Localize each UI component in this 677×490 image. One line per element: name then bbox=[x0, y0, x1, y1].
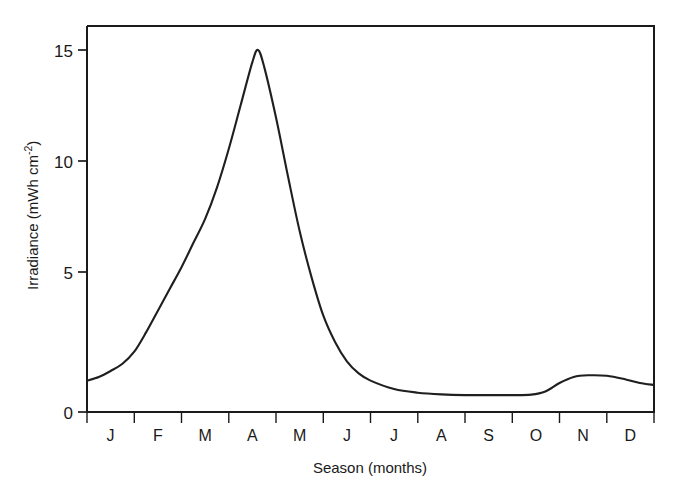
y-tick-label-5: 5 bbox=[64, 264, 73, 283]
y-tick-label-10: 10 bbox=[54, 153, 73, 172]
x-label-apr: A bbox=[247, 427, 258, 444]
x-axis-title: Season (months) bbox=[313, 459, 427, 476]
x-label-jan: J bbox=[107, 427, 115, 444]
x-label-feb: F bbox=[153, 427, 163, 444]
x-label-mar: M bbox=[198, 427, 211, 444]
y-axis-title: Irradiance (mWh cm-2) bbox=[22, 141, 41, 290]
x-label-dec: D bbox=[625, 427, 637, 444]
y-axis-title-close: ) bbox=[24, 141, 41, 146]
x-label-nov: N bbox=[577, 427, 589, 444]
y-tick-label-0: 0 bbox=[64, 404, 73, 423]
x-label-sep: S bbox=[483, 427, 494, 444]
x-axis-tick-labels: J F M A M J J A S O N D bbox=[107, 427, 637, 444]
irradiance-curve bbox=[87, 50, 654, 395]
x-label-jun: J bbox=[343, 427, 351, 444]
plot-frame bbox=[87, 26, 654, 412]
x-label-aug: A bbox=[436, 427, 447, 444]
y-axis-ticks bbox=[78, 50, 87, 412]
x-label-jul: J bbox=[390, 427, 398, 444]
y-axis-title-superscript: -2 bbox=[22, 145, 34, 154]
y-axis-tick-labels: 15 10 5 0 bbox=[54, 42, 73, 423]
svg-text:Irradiance (mWh cm-2): Irradiance (mWh cm-2) bbox=[22, 141, 41, 290]
irradiance-season-chart: 15 10 5 0 Irradiance (mWh cm-2) bbox=[0, 0, 677, 490]
y-tick-label-15: 15 bbox=[54, 42, 73, 61]
axes-box bbox=[87, 26, 654, 412]
y-axis-title-main: Irradiance (mWh cm bbox=[24, 155, 41, 290]
figure-container: 15 10 5 0 Irradiance (mWh cm-2) bbox=[0, 0, 677, 490]
x-axis-ticks bbox=[87, 412, 654, 423]
x-label-oct: O bbox=[530, 427, 542, 444]
x-label-may: M bbox=[293, 427, 306, 444]
